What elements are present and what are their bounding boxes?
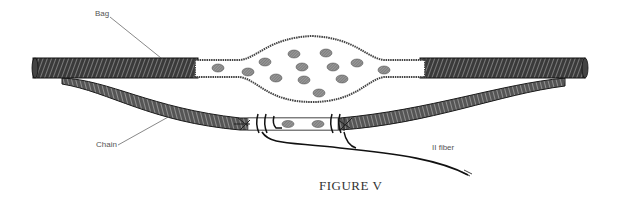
muscle-spindle-figure: Bag Chain II fiber FIGURE V [0, 0, 617, 200]
bag-polar-region-left [33, 58, 198, 78]
spindle-illustration [0, 0, 617, 200]
chain-label: Chain [96, 140, 117, 149]
chain-nucleus [312, 121, 324, 128]
chain-nucleus [282, 121, 294, 128]
nuclear-bag [195, 36, 425, 102]
bag-label: Bag [95, 9, 109, 18]
bag-leader-line [110, 17, 161, 58]
fiber-label: II fiber [432, 143, 454, 152]
bag-polar-region-right [420, 58, 585, 78]
nerve-fiber-II [262, 132, 472, 176]
chain-leader-line [118, 116, 170, 145]
figure-caption: FIGURE V [319, 178, 382, 194]
